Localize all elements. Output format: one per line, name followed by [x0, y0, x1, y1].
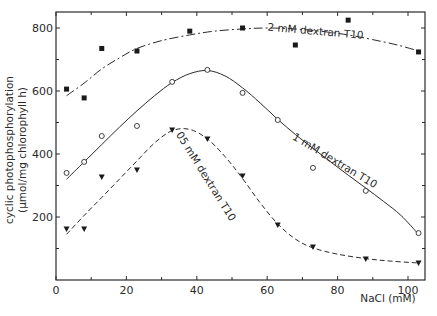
square-marker [346, 18, 351, 23]
circle-marker [170, 79, 175, 84]
circle-marker [134, 123, 139, 128]
square-marker [416, 49, 421, 54]
fit-curve-0-5-mm-dextran-t10 [67, 129, 419, 263]
x-tick-label: 60 [260, 284, 274, 297]
triangle-marker [134, 168, 140, 174]
square-marker [99, 46, 104, 51]
curve-label-0-5-mm-dextran-t10: 05 mM dextran T10 [174, 129, 239, 223]
circle-marker [82, 159, 87, 164]
x-axis-title: NaCl (mM) [360, 292, 415, 304]
curve-label-2-mm-dextran-t10: 2 mM dextran T10 [267, 21, 364, 41]
square-marker [64, 87, 69, 92]
y-tick-label: 200 [32, 211, 53, 224]
square-marker [293, 43, 298, 48]
y-tick-label: 400 [32, 148, 53, 161]
triangle-marker [99, 174, 105, 180]
data-markers [64, 18, 422, 266]
square-marker [134, 48, 139, 53]
plot-frame [56, 12, 425, 280]
triangle-marker [81, 226, 87, 232]
y-tick-label: 800 [32, 22, 53, 35]
circle-marker [363, 188, 368, 193]
square-marker [187, 29, 192, 34]
line-chart: 020406080100200400600800 2 mM dextran T1… [0, 0, 437, 316]
circle-marker [310, 165, 315, 170]
circle-marker [416, 231, 421, 236]
circle-marker [99, 134, 104, 139]
circle-marker [275, 117, 280, 122]
y-tick-label: 600 [32, 85, 53, 98]
chart-container: 020406080100200400600800 2 mM dextran T1… [0, 0, 437, 316]
circle-marker [64, 170, 69, 175]
fit-curve-2-mm-dextran-t10 [67, 28, 419, 96]
y-axis-title-line1: cyclic photophosphorylation [3, 76, 15, 224]
fit-curves [67, 28, 419, 263]
y-axis-title-line2: (µmol/mg chlorophyll h) [16, 87, 28, 213]
triangle-marker [169, 128, 175, 134]
x-tick-label: 80 [331, 284, 345, 297]
x-tick-label: 0 [53, 284, 60, 297]
triangle-marker [64, 226, 70, 232]
circle-marker [240, 90, 245, 95]
square-marker [82, 95, 87, 100]
triangle-marker [275, 222, 281, 228]
x-tick-label: 20 [119, 284, 133, 297]
square-marker [240, 26, 245, 31]
circle-marker [205, 67, 210, 72]
triangle-marker [204, 136, 210, 142]
x-tick-label: 40 [190, 284, 204, 297]
curve-label-1-mm-dextran-t10: 1 mM dextran T10 [291, 130, 380, 190]
